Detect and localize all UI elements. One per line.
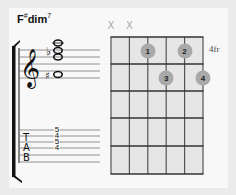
finger-dot-3: 3 [159, 70, 174, 85]
finger-dot-1: 1 [140, 43, 155, 58]
finger-dot-2: 2 [177, 43, 192, 58]
mute-string-5: X [126, 20, 133, 31]
fret-position-label: 4fr [209, 44, 220, 54]
finger-dot-4: 4 [196, 70, 211, 85]
fretboard-grid [0, 0, 236, 195]
mute-string-6: X [108, 20, 115, 31]
